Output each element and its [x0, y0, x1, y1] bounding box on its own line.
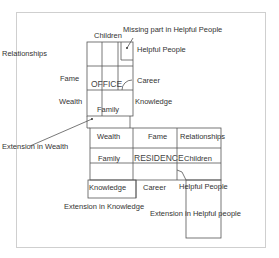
label-office-career: Career [137, 77, 160, 85]
label-office-wealth: Wealth [59, 98, 82, 106]
label-res-relationships: Relationships [180, 133, 225, 141]
label-office-relationships: Relationships [2, 50, 47, 58]
label-res-knowledge: Knowledge [89, 184, 126, 192]
label-extension-helpful: Extension in Helpful people [150, 210, 241, 218]
label-office-knowledge: Knowledge [135, 98, 172, 106]
residence-door-arc [177, 170, 186, 180]
label-office-children: Children [94, 32, 122, 40]
label-res-family: Family [98, 155, 120, 163]
label-res-career: Career [143, 184, 166, 192]
floor-plan-lines [0, 0, 279, 258]
label-office-family: Family [97, 106, 119, 114]
label-office-helpful-people: Helpful People [137, 46, 186, 54]
label-extension-wealth: Extension in Wealth [2, 143, 68, 151]
label-res-helpful-people: Helpful People [179, 183, 228, 191]
label-extension-knowledge: Extension in Knowledge [64, 203, 144, 211]
label-res-children: Children [184, 155, 212, 163]
office-door-arc [122, 80, 132, 90]
label-res-title: RESIDENCE [134, 154, 184, 163]
missing-part-notch [121, 42, 133, 60]
label-missing-part: Missing part in Helpful People [123, 26, 222, 34]
label-office-fame: Fame [60, 75, 79, 83]
label-office-title: OFFICE [91, 80, 122, 89]
label-res-wealth: Wealth [97, 133, 120, 141]
label-res-fame: Fame [148, 133, 167, 141]
